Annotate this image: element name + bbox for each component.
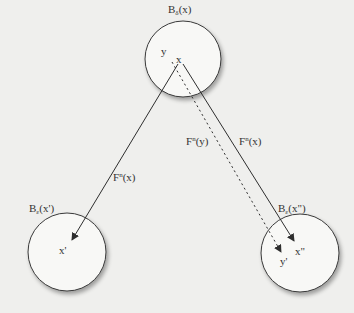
label-arg: (x) (249, 135, 262, 147)
ball-right-label: Bε(x") (278, 203, 306, 216)
arrow-right-label: Fn(x) (239, 136, 261, 147)
diagram-svg (0, 0, 354, 313)
point-y-prime: y' (280, 256, 287, 267)
arrow-dotted-label: Fn(y) (186, 136, 208, 147)
point-x: x (176, 54, 182, 65)
label-arg: (x") (288, 202, 305, 214)
diagram-canvas: Bδ(x) Bε(x') Bε(x") y x x' x" y' Fn(x) F… (0, 0, 354, 313)
point-x-prime: x' (59, 245, 66, 256)
ball-left-label: Bε(x') (29, 203, 54, 216)
label-arg: (x) (179, 3, 192, 15)
arrow-left-solid (72, 64, 178, 240)
ball-top-label: Bδ(x) (168, 4, 191, 17)
label-arg: (y) (196, 135, 209, 147)
label-arg: (x') (39, 202, 54, 214)
point-x-double-prime: x" (295, 246, 305, 257)
ball-top (145, 21, 221, 97)
arrow-left-label: Fn(x) (113, 172, 135, 183)
point-y: y (161, 46, 167, 57)
label-arg: (x) (123, 171, 136, 183)
ball-left (28, 213, 106, 291)
